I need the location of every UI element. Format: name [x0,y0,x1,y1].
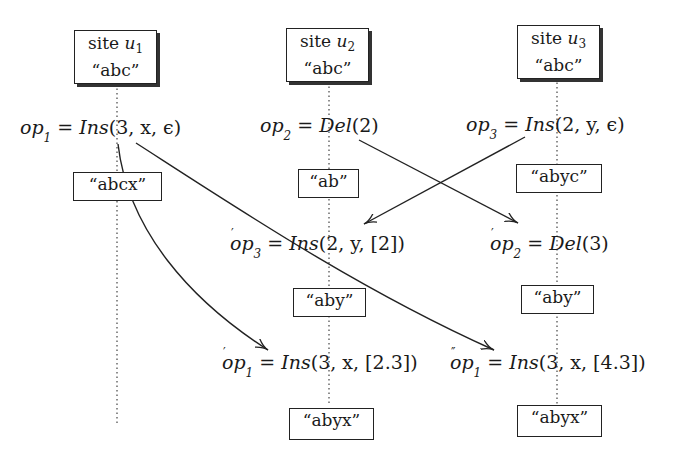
op2-label: op2 = Del(2) [260,113,379,145]
site-u1-initial-state: “abc” [79,60,152,81]
site-box-u1: site u1 “abc” [74,30,157,84]
state-u2-abyx: “abyx” [289,408,374,440]
arrow-op3-to-op3p [364,137,525,224]
site-u2-initial-state: “abc” [291,58,364,79]
op1-prime-label: op′1 = Ins(3, x, [2.3]) [222,350,418,382]
state-u3-aby: “aby” [521,285,594,314]
state-u3-abyc: “abyc” [516,164,602,193]
op3-prime-label: op′3 = Ins(2, y, [2]) [230,231,405,263]
site-u3-initial-state: “abc” [522,55,595,76]
op1-label: op1 = Ins(3, x, ϵ) [20,115,181,147]
state-u1-abcx: “abcx” [73,172,162,201]
state-u2-ab: “ab” [298,169,359,198]
state-u2-aby: “aby” [293,288,366,317]
site-box-u3: site u3 “abc” [517,25,600,79]
site-box-u2: site u2 “abc” [286,28,369,82]
state-u3-abyx: “abyx” [517,405,602,437]
op3-label: op3 = Ins(2, y, ϵ) [466,112,625,144]
op1-double-prime-label: op″1 = Ins(3, x, [4.3]) [450,350,646,382]
arrow-op2-to-op2p [359,140,518,223]
op2-prime-label: op′2 = Del(3) [490,231,609,263]
